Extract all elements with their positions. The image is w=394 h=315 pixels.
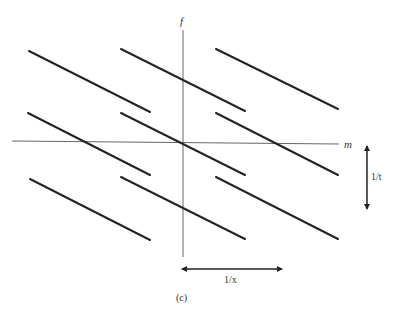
periodic-lines-diagram: f m 1/t 1/x (c) — [0, 0, 394, 315]
diagonal-segment — [30, 179, 150, 240]
horizontal-axis-m — [12, 141, 339, 144]
diagonal-segment — [28, 113, 150, 175]
period-x-label: 1/x — [224, 274, 237, 285]
diagonal-segment — [216, 49, 338, 109]
f-axis-label: f — [180, 15, 185, 27]
m-axis-label: m — [344, 138, 352, 150]
diagonal-segment — [29, 51, 150, 112]
period-t-label: 1/t — [371, 171, 382, 182]
diagonal-segment — [216, 177, 338, 239]
figure-caption: (c) — [176, 292, 187, 304]
